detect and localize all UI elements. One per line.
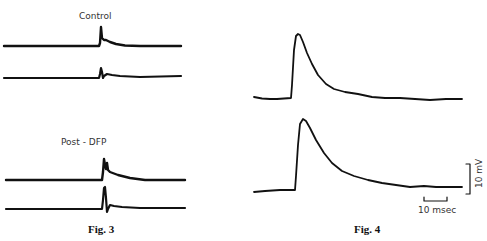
control-trace-1 — [4, 27, 181, 46]
fig3-caption: Fig. 3 — [88, 223, 115, 235]
fig4-trace-1 — [254, 34, 462, 100]
post-dfp-trace-1 — [6, 159, 185, 180]
fig4: 10 mV 10 msec Fig. 4 — [254, 34, 484, 235]
post-dfp-trace-2 — [6, 187, 185, 212]
fig3: Control Post - DFP Fig. 3 — [4, 11, 185, 235]
control-label: Control — [79, 11, 112, 21]
time-scale-label: 10 msec — [418, 205, 456, 215]
voltage-scale-bar — [466, 164, 470, 194]
fig4-caption: Fig. 4 — [354, 223, 381, 235]
time-scale-bar — [424, 197, 447, 201]
voltage-scale-label: 10 mV — [474, 158, 484, 188]
post-dfp-label: Post - DFP — [61, 137, 107, 147]
control-trace-2 — [4, 68, 181, 78]
fig4-trace-2 — [254, 119, 462, 192]
figure-canvas: Control Post - DFP Fig. 3 10 mV 10 msec … — [0, 0, 487, 241]
